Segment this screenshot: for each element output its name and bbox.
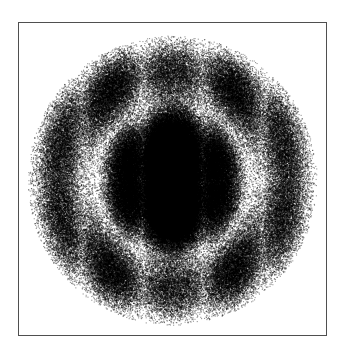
electron-density-scatter-canvas: [19, 23, 326, 335]
plot-frame: [18, 22, 327, 336]
figure-root: Monte Carlo sampled electron probability…: [0, 0, 343, 357]
